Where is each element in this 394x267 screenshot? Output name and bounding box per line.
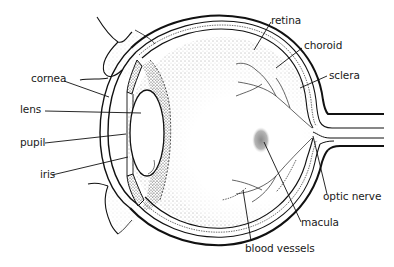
label-sclera: sclera [329,70,360,81]
label-pupil: pupil [20,137,45,148]
label-optic-nerve: optic nerve [323,191,381,202]
label-blood-vessels: blood vessels [245,243,315,254]
optic-nerve [313,122,384,150]
lens [130,90,164,176]
eye-diagram: retina choroid sclera cornea lens pupil … [0,0,394,267]
label-lens: lens [20,104,41,115]
label-retina: retina [271,15,301,26]
label-choroid: choroid [304,40,342,51]
label-macula: macula [301,217,339,228]
label-iris: iris [40,169,55,180]
label-cornea: cornea [31,73,66,84]
